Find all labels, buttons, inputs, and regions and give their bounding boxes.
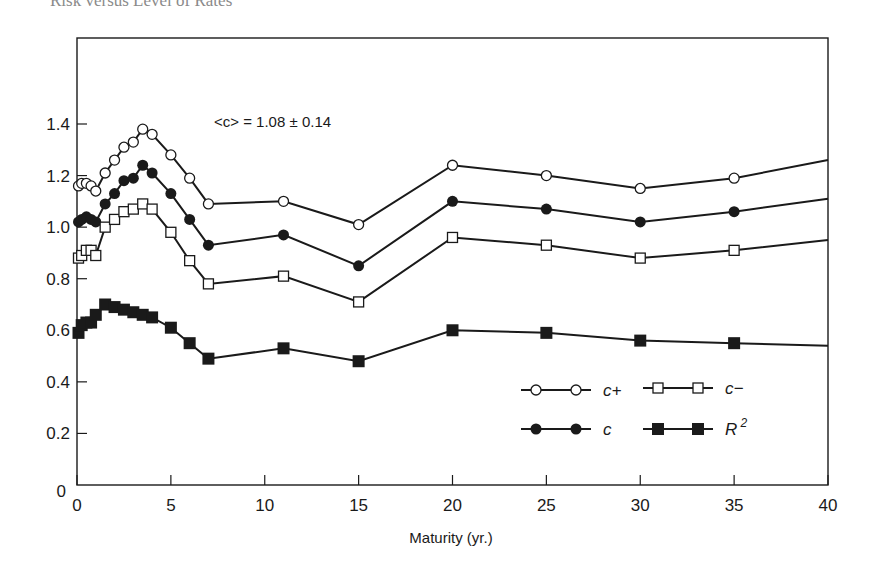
x-tick-label: 35 bbox=[725, 496, 744, 515]
x-tick-label: 20 bbox=[443, 496, 462, 515]
data-point bbox=[110, 214, 120, 224]
data-point bbox=[138, 124, 148, 134]
data-point bbox=[634, 335, 646, 347]
data-point bbox=[635, 183, 645, 193]
data-point bbox=[202, 353, 214, 365]
legend-item: R 2 bbox=[643, 416, 748, 439]
x-tick-label: 0 bbox=[72, 496, 81, 515]
legend-marker-icon bbox=[531, 424, 542, 435]
y-tick-label: 0.8 bbox=[46, 270, 70, 289]
data-point bbox=[541, 204, 552, 215]
series-layer bbox=[73, 124, 828, 367]
data-point bbox=[448, 160, 458, 170]
data-point bbox=[184, 214, 195, 225]
data-point bbox=[110, 155, 120, 165]
data-point bbox=[100, 168, 110, 178]
data-point bbox=[635, 216, 646, 227]
data-point bbox=[166, 150, 176, 160]
data-point bbox=[147, 129, 157, 139]
data-point bbox=[447, 196, 458, 207]
data-point bbox=[128, 173, 139, 184]
y-axis: 00.20.40.60.81.01.21.4 bbox=[46, 115, 87, 501]
x-axis: 0510152025303540 bbox=[72, 475, 837, 515]
legend-marker-icon bbox=[693, 383, 703, 393]
x-tick-label: 5 bbox=[166, 496, 175, 515]
data-point bbox=[278, 229, 289, 240]
data-point bbox=[447, 324, 459, 336]
x-tick-label: 30 bbox=[631, 496, 650, 515]
data-point bbox=[118, 175, 129, 186]
line-chart: 0510152025303540 00.20.40.60.81.01.21.4 … bbox=[0, 0, 895, 584]
data-point bbox=[203, 199, 213, 209]
legend-item: c− bbox=[643, 379, 744, 398]
data-point bbox=[119, 207, 129, 217]
legend-marker-icon bbox=[571, 424, 582, 435]
data-point bbox=[109, 188, 120, 199]
legend-item: c+ bbox=[521, 381, 622, 400]
legend-label: R 2 bbox=[725, 416, 748, 439]
y-tick-label: 1.0 bbox=[46, 218, 70, 237]
legend-marker-icon bbox=[571, 385, 581, 395]
x-tick-label: 40 bbox=[819, 496, 838, 515]
data-point bbox=[728, 337, 740, 349]
data-point bbox=[279, 271, 289, 281]
data-point bbox=[128, 204, 138, 214]
data-point bbox=[91, 186, 101, 196]
legend-marker-icon bbox=[653, 383, 663, 393]
legend-label: c bbox=[603, 420, 612, 439]
data-point bbox=[185, 173, 195, 183]
data-point bbox=[540, 327, 552, 339]
y-tick-label: 0.4 bbox=[46, 373, 70, 392]
data-point bbox=[353, 260, 364, 271]
data-point bbox=[353, 355, 365, 367]
mean-annotation: <c> = 1.08 ± 0.14 bbox=[214, 113, 331, 130]
data-point bbox=[278, 342, 290, 354]
data-point bbox=[185, 256, 195, 266]
y-tick-label: 0 bbox=[57, 482, 66, 501]
data-point bbox=[203, 240, 214, 251]
y-tick-label: 0.6 bbox=[46, 321, 70, 340]
data-point bbox=[100, 222, 110, 232]
data-point bbox=[354, 220, 364, 230]
legend-marker-icon bbox=[692, 423, 704, 435]
data-point bbox=[128, 137, 138, 147]
data-point bbox=[166, 227, 176, 237]
x-tick-label: 15 bbox=[349, 496, 368, 515]
legend: c+c−cR 2 bbox=[521, 379, 748, 439]
legend-label: c− bbox=[725, 379, 744, 398]
series-R bbox=[73, 299, 828, 368]
data-point bbox=[91, 251, 101, 261]
legend-superscript: 2 bbox=[737, 416, 747, 430]
y-tick-label: 0.2 bbox=[46, 424, 70, 443]
data-point bbox=[203, 279, 213, 289]
data-point bbox=[165, 188, 176, 199]
legend-marker-icon bbox=[531, 385, 541, 395]
data-point bbox=[729, 173, 739, 183]
data-point bbox=[635, 253, 645, 263]
data-point bbox=[138, 199, 148, 209]
y-tick-label: 1.2 bbox=[46, 167, 70, 186]
legend-label: c+ bbox=[603, 381, 622, 400]
data-point bbox=[165, 322, 177, 334]
data-point bbox=[279, 196, 289, 206]
data-point bbox=[729, 245, 739, 255]
data-point bbox=[119, 142, 129, 152]
data-point bbox=[90, 309, 102, 321]
data-point bbox=[147, 204, 157, 214]
data-point bbox=[137, 160, 148, 171]
data-point bbox=[541, 240, 551, 250]
data-point bbox=[448, 232, 458, 242]
legend-item: c bbox=[521, 420, 612, 439]
data-point bbox=[729, 206, 740, 217]
data-point bbox=[147, 167, 158, 178]
data-point bbox=[184, 337, 196, 349]
data-point bbox=[541, 171, 551, 181]
x-tick-label: 25 bbox=[537, 496, 556, 515]
data-point bbox=[100, 198, 111, 209]
x-tick-label: 10 bbox=[255, 496, 274, 515]
x-axis-title: Maturity (yr.) bbox=[409, 529, 492, 546]
data-point bbox=[354, 297, 364, 307]
y-tick-label: 1.4 bbox=[46, 115, 70, 134]
legend-marker-icon bbox=[652, 423, 664, 435]
data-point bbox=[146, 311, 158, 323]
